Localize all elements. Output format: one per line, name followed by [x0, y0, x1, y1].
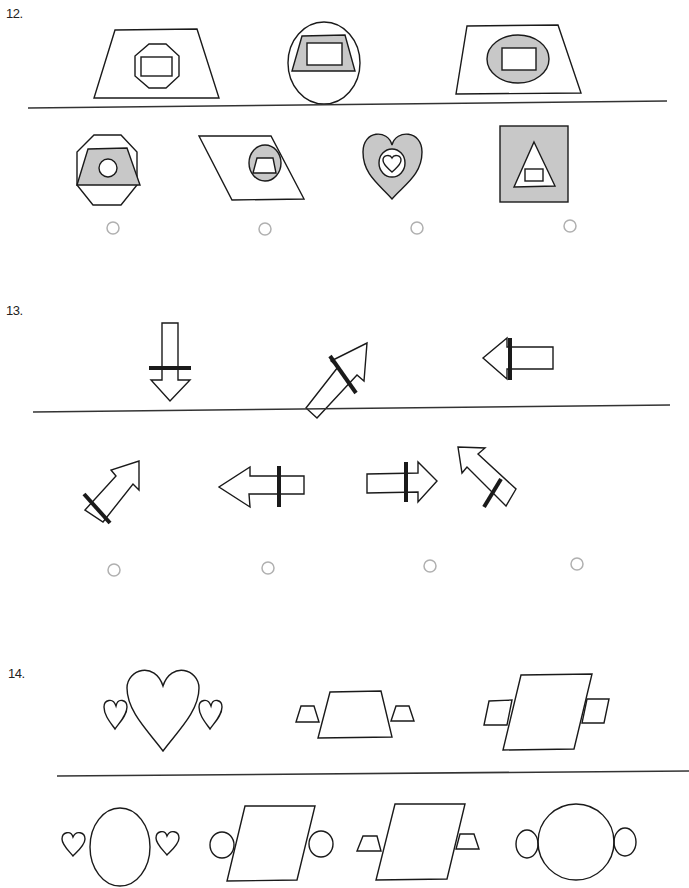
q13-option-3-radio[interactable] [424, 560, 436, 572]
circle-shape [99, 159, 117, 177]
q13-option-figure-2 [219, 466, 304, 507]
question-13 [33, 323, 670, 576]
q12-option-figure-4 [500, 126, 568, 202]
arrow-up-right-shape [306, 343, 367, 418]
small-heart-shape [62, 833, 85, 856]
small-oval-shape [614, 828, 636, 856]
small-circle-shape [309, 831, 333, 857]
q14-prompt-figure-3 [484, 674, 609, 750]
question-12 [28, 22, 667, 235]
small-heart-shape [156, 832, 179, 855]
crossbar-line [330, 356, 356, 393]
q14-option-figure-3 [357, 804, 479, 880]
divider-line [28, 101, 667, 108]
parallelogram-shape [503, 674, 592, 750]
divider-line [57, 771, 689, 776]
trapezoid-shape [253, 158, 276, 173]
arrow-left-shape [483, 338, 553, 379]
small-oval-shape [516, 830, 538, 858]
q13-option-figure-1 [84, 461, 139, 523]
q12-option-3-radio[interactable] [411, 222, 423, 234]
small-parallelogram-shape [582, 699, 609, 723]
q13-prompt-figure-1 [149, 323, 191, 401]
q12-prompt-figure-3 [456, 25, 581, 94]
small-heart-shape [199, 700, 222, 729]
q14-prompt-figure-2 [296, 691, 414, 738]
small-parallelogram-shape [484, 700, 512, 725]
small-trapezoid-shape [357, 836, 381, 851]
oval-shape [90, 808, 150, 886]
q14-option-figure-2 [210, 806, 333, 881]
q13-prompt-figure-3 [483, 338, 553, 380]
q12-prompt-figure-1 [94, 29, 219, 98]
circle-shape [538, 804, 614, 880]
q13-prompt-figure-2 [306, 343, 367, 418]
q13-option-2-radio[interactable] [262, 562, 274, 574]
arrow-down-shape [151, 323, 190, 401]
q13-option-figure-4 [458, 447, 516, 507]
question-14 [57, 670, 689, 886]
q13-option-4-radio[interactable] [571, 558, 583, 570]
q12-option-figure-2 [199, 136, 304, 200]
q12-option-figure-3 [363, 134, 422, 199]
rectangle-shape [141, 57, 172, 76]
small-trapezoid-shape [296, 706, 319, 722]
small-trapezoid-shape [456, 834, 479, 849]
q13-option-1-radio[interactable] [108, 564, 120, 576]
small-trapezoid-shape [391, 706, 414, 721]
arrow-up-right-shape [85, 461, 139, 522]
crossbar-line [484, 479, 501, 507]
small-heart-shape [104, 700, 127, 729]
rectangle-shape [502, 48, 536, 70]
arrow-left-shape [219, 467, 304, 507]
arrow-right-shape [367, 462, 437, 502]
q12-option-figure-1 [77, 135, 140, 205]
q12-prompt-figure-2 [288, 22, 360, 104]
q14-option-figure-4 [516, 804, 636, 880]
divider-line [33, 405, 670, 412]
q12-option-2-radio[interactable] [259, 223, 271, 235]
parallelogram-shape [227, 806, 315, 881]
q14-prompt-figure-1 [104, 670, 222, 751]
q14-option-figure-1 [62, 808, 179, 886]
q13-option-figure-3 [367, 462, 437, 502]
heart-shape [127, 670, 199, 751]
q12-option-1-radio[interactable] [107, 222, 119, 234]
q12-option-4-radio[interactable] [564, 220, 576, 232]
parallelogram-shape [376, 804, 465, 880]
rectangle-shape [307, 43, 342, 65]
trapezoid-shape [318, 691, 392, 738]
arrow-up-left-shape [458, 447, 516, 506]
small-circle-shape [210, 832, 234, 858]
